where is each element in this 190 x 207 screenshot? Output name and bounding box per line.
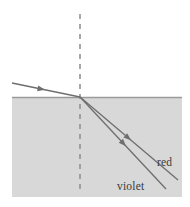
incident-ray-line xyxy=(12,83,80,97)
refraction-diagram: red violet xyxy=(0,0,190,207)
red-ray-label: red xyxy=(157,156,172,168)
violet-ray-label: violet xyxy=(117,180,145,192)
diagram-canvas: red violet xyxy=(0,0,190,207)
